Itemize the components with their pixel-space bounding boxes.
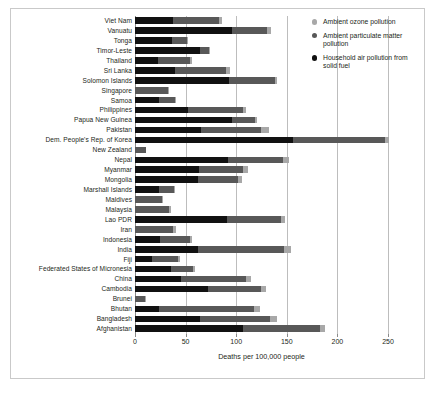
stacked-bar (135, 276, 251, 283)
bar-segment (169, 206, 171, 213)
stacked-bar (135, 127, 269, 134)
x-tick-mark (388, 334, 389, 337)
bar-segment (219, 17, 222, 24)
stacked-bar (135, 296, 146, 303)
bar-row (135, 165, 388, 175)
category-label: Myanmar (12, 165, 132, 175)
bar-row (135, 264, 388, 274)
bar-segment (159, 306, 254, 313)
stacked-bar (135, 17, 222, 24)
stacked-bar (135, 47, 210, 54)
stacked-bar (135, 97, 176, 104)
bar-segment (135, 107, 188, 114)
x-tick-label: 0 (115, 338, 155, 345)
bar-segment (199, 166, 244, 173)
bar-segment (135, 166, 199, 173)
stacked-bar (135, 196, 163, 203)
bar-segment (172, 37, 186, 44)
bar-segment (135, 206, 169, 213)
category-label: Mongolia (12, 175, 132, 185)
bar-segment (193, 266, 195, 273)
bar-row (135, 324, 388, 334)
legend-label: Ambient particulate matter pollution (323, 32, 422, 49)
bar-row (135, 115, 388, 125)
bar-segment (135, 137, 293, 144)
bar-segment (159, 186, 174, 193)
bar-segment (226, 67, 230, 74)
bar-segment (254, 306, 260, 313)
bar-segment (135, 97, 159, 104)
stacked-bar (135, 157, 289, 164)
bar-row (135, 96, 388, 106)
stacked-bar (135, 27, 271, 34)
bar-row (135, 135, 388, 145)
bar-segment (174, 186, 175, 193)
category-label: Philippines (12, 105, 132, 115)
bar-segment (270, 316, 277, 323)
bar-segment (175, 97, 176, 104)
bar-segment (200, 47, 209, 54)
bar-segment (135, 27, 232, 34)
bar-segment (385, 137, 389, 144)
legend-item: Ambient ozone pollution (312, 18, 422, 27)
bar-row (135, 235, 388, 245)
bar-segment (162, 196, 163, 203)
bar-row (135, 255, 388, 265)
category-label: Afghanistan (12, 324, 132, 334)
bar-segment (135, 266, 171, 273)
bar-row (135, 175, 388, 185)
stacked-bar (135, 37, 188, 44)
category-label: New Zealand (12, 145, 132, 155)
category-label: Dem. People's Rep. of Korea (12, 135, 132, 145)
bar-segment (135, 276, 181, 283)
stacked-bar (135, 266, 195, 273)
bar-segment (228, 157, 283, 164)
bar-segment (135, 246, 198, 253)
category-label: Maldives (12, 195, 132, 205)
bar-row (135, 76, 388, 86)
bar-row (135, 314, 388, 324)
bar-segment (135, 127, 201, 134)
category-label: Cambodia (12, 284, 132, 294)
x-tick-mark (337, 334, 338, 337)
bar-segment (173, 17, 219, 24)
category-label: Samoa (12, 96, 132, 106)
category-label: Fiji (12, 255, 132, 265)
category-label: Nepal (12, 155, 132, 165)
stacked-bar (135, 176, 242, 183)
x-axis-title: Deaths per 100,000 people (135, 352, 388, 361)
bar-segment (158, 57, 189, 64)
bar-row (135, 304, 388, 314)
stacked-bar (135, 206, 171, 213)
bar-segment (267, 27, 271, 34)
bar-segment (261, 286, 265, 293)
stacked-bar (135, 87, 169, 94)
bar-segment (135, 67, 175, 74)
category-label: Solomon Islands (12, 76, 132, 86)
bar-segment (188, 107, 244, 114)
category-label: Malaysia (12, 205, 132, 215)
bar-segment (135, 296, 145, 303)
stacked-bar (135, 216, 285, 223)
stacked-bar (135, 77, 277, 84)
category-label: Papua New Guinea (12, 115, 132, 125)
bar-row (135, 125, 388, 135)
bar-segment (201, 127, 262, 134)
legend-marker-icon (312, 33, 317, 38)
bar-row (135, 155, 388, 165)
bar-segment (135, 17, 173, 24)
bar-segment (181, 276, 247, 283)
bar-segment (246, 276, 251, 283)
bar-segment (135, 306, 159, 313)
chart-legend: Ambient ozone pollutionAmbient particula… (312, 18, 422, 76)
stacked-bar (135, 246, 291, 253)
stacked-bar (135, 286, 266, 293)
stacked-bar (135, 186, 175, 193)
bar-segment (284, 246, 291, 253)
x-tick-label: 50 (166, 338, 206, 345)
bar-segment (209, 47, 210, 54)
category-label: Timor-Leste (12, 46, 132, 56)
bar-segment (135, 47, 200, 54)
bar-segment (281, 216, 285, 223)
bar-segment (243, 166, 248, 173)
